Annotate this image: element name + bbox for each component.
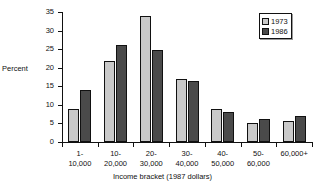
x-axis-tick bbox=[312, 143, 313, 147]
bar-1973-1 bbox=[104, 61, 115, 142]
x-axis-label-line: 60,000+ bbox=[270, 149, 318, 159]
bar-1973-4 bbox=[211, 109, 222, 142]
y-axis-tick-label: 5 bbox=[34, 119, 54, 127]
chart-legend: 19731986 bbox=[259, 13, 292, 39]
y-axis-tick-label: 15 bbox=[34, 82, 54, 90]
bar-1986-2 bbox=[152, 50, 163, 142]
y-axis-tick-label: 20 bbox=[34, 64, 54, 72]
y-axis-tick-label: 0 bbox=[34, 138, 54, 146]
bar-1986-5 bbox=[259, 119, 270, 142]
bar-1986-1 bbox=[116, 45, 127, 142]
bar-1986-4 bbox=[223, 112, 234, 142]
y-axis-tick-label: 35 bbox=[34, 8, 54, 16]
x-axis-tick bbox=[241, 143, 242, 147]
dark-dotted-swatch bbox=[262, 28, 269, 35]
legend-item-label: 1986 bbox=[271, 27, 288, 36]
x-axis-label-6: 60,000+ bbox=[270, 149, 318, 159]
bar-group bbox=[68, 12, 91, 142]
bar-1973-2 bbox=[140, 16, 151, 142]
bar-group bbox=[176, 12, 199, 142]
bar-1986-6 bbox=[295, 116, 306, 142]
bar-1986-3 bbox=[188, 81, 199, 142]
legend-item-label: 1973 bbox=[271, 17, 288, 26]
x-axis-tick bbox=[98, 143, 99, 147]
bar-group bbox=[211, 12, 234, 142]
y-axis-tick-label: 25 bbox=[34, 45, 54, 53]
bar-group bbox=[140, 12, 163, 142]
bar-chart: Percent 05101520253035 1-10,00010-20,000… bbox=[0, 0, 325, 188]
x-axis-tick bbox=[205, 143, 206, 147]
y-axis-tick-label: 10 bbox=[34, 101, 54, 109]
bar-1973-3 bbox=[176, 79, 187, 142]
bar-1973-6 bbox=[283, 121, 294, 142]
x-axis-label-line: 60,000 bbox=[235, 159, 283, 169]
bar-group bbox=[104, 12, 127, 142]
light-dotted-swatch bbox=[262, 18, 269, 25]
bar-1973-5 bbox=[247, 123, 258, 142]
x-axis-title: Income bracket (1987 dollars) bbox=[0, 172, 325, 181]
y-axis-title: Percent bbox=[2, 64, 28, 73]
x-axis-tick bbox=[62, 143, 63, 147]
bar-1986-0 bbox=[80, 90, 91, 142]
legend-item-1986[interactable]: 1986 bbox=[262, 26, 288, 36]
bar-1973-0 bbox=[68, 109, 79, 142]
x-axis-tick bbox=[169, 143, 170, 147]
x-axis-tick bbox=[276, 143, 277, 147]
y-axis-tick-label: 30 bbox=[34, 27, 54, 35]
legend-item-1973[interactable]: 1973 bbox=[262, 16, 288, 26]
x-axis-tick bbox=[133, 143, 134, 147]
